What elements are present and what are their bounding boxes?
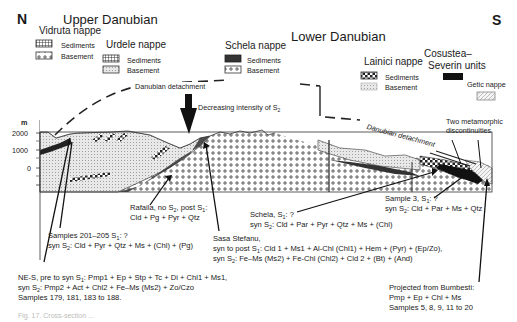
urdele-sediments-swatch bbox=[103, 55, 119, 62]
lainici-title: Lainici nappe bbox=[364, 56, 423, 67]
cosustea-title-1: Cosustea– bbox=[424, 48, 472, 59]
axis-tick-0: 0 bbox=[27, 164, 31, 173]
annotation-bumbesti: Projected from Bumbesti: Pmp + Ep + Chl … bbox=[389, 283, 474, 313]
getic-title: Getic nappe bbox=[467, 80, 506, 89]
lainici-sediments-swatch bbox=[361, 72, 377, 79]
schela-sediments-label: Sediments bbox=[247, 56, 281, 65]
schela-title: Schela nappe bbox=[225, 40, 286, 51]
lainici-sediments-label: Sediments bbox=[385, 73, 419, 82]
s2-arrow-label: Decreasing intensity of S2 bbox=[198, 103, 280, 112]
vidruta-sediments-swatch bbox=[36, 40, 52, 47]
schela-sediments-swatch bbox=[225, 55, 241, 62]
vidruta-sediments-label: Sediments bbox=[61, 41, 95, 50]
annotation-sasa-stefanu: Sasa Stefanu, syn to post S1: Cld 1 + Ms… bbox=[213, 234, 442, 264]
annotation-sample-3: Sample 3, S1: ? syn S2: Cld + Par + Ms +… bbox=[385, 194, 482, 214]
discontinuities-label-2: discontinuities bbox=[446, 126, 491, 135]
axis-tick-1000: 1000 bbox=[12, 146, 28, 155]
lainici-basement-label: Basement bbox=[385, 83, 417, 92]
discontinuities-label-1: Two metamorphic bbox=[446, 117, 503, 126]
vidruta-title: Vidruta nappe bbox=[39, 25, 101, 36]
urdele-basement-swatch bbox=[103, 66, 119, 73]
vidruta-basement-label: Basement bbox=[61, 52, 93, 61]
cosustea-title-2: Severin units bbox=[428, 60, 486, 71]
getic-swatch bbox=[477, 92, 495, 100]
axis-unit: m bbox=[21, 118, 27, 127]
vidruta-basement-swatch bbox=[36, 52, 52, 59]
lower-danubian-header: Lower Danubian bbox=[291, 29, 386, 44]
urdele-title: Urdele nappe bbox=[106, 39, 166, 50]
south-label: S bbox=[492, 12, 501, 28]
cosustea-swatch bbox=[443, 73, 463, 80]
detachment-top-label: Danubian detachment bbox=[133, 82, 207, 91]
north-label: N bbox=[17, 11, 27, 27]
annotation-rafaila: Rafaila, no S2, post S1: Cld + Pg + Pyr … bbox=[130, 203, 207, 223]
annotation-samples-201: Samples 201–205 S1: ? syn S2: Cld + Pyr … bbox=[48, 231, 193, 251]
urdele-basement-label: Basement bbox=[127, 66, 159, 75]
annotation-schela: Schela, S1: ? syn S2: Cld + Par + Pyr + … bbox=[250, 210, 392, 230]
annotation-ne-s: NE-S, pre to syn S1: Pmp1 + Ep + Stp + T… bbox=[18, 273, 227, 303]
schela-basement-label: Basement bbox=[247, 66, 279, 75]
urdele-sediments-label: Sediments bbox=[127, 56, 161, 65]
lainici-basement-swatch bbox=[361, 83, 377, 90]
schela-basement-swatch bbox=[225, 66, 241, 73]
figure-caption: Fig. 17. Cross-section ... bbox=[18, 312, 94, 319]
axis-tick-2000: 2000 bbox=[12, 129, 28, 138]
